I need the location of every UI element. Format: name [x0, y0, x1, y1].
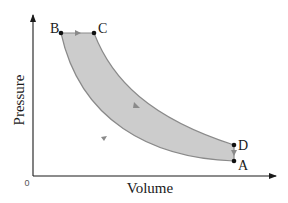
y-axis-label: Pressure [11, 74, 27, 125]
x-axis-label: Volume [127, 180, 174, 196]
point-a [232, 159, 237, 164]
label-b: B [50, 21, 59, 36]
origin-label: 0 [24, 178, 29, 188]
label-c: C [98, 21, 107, 36]
point-d [232, 143, 237, 148]
point-b [59, 31, 64, 36]
point-c [92, 31, 97, 36]
label-d: D [238, 138, 248, 153]
label-a: A [238, 158, 249, 173]
pv-diagram: B C D A Volume Pressure 0 [0, 0, 288, 203]
arrow-up-left-icon [101, 136, 107, 141]
